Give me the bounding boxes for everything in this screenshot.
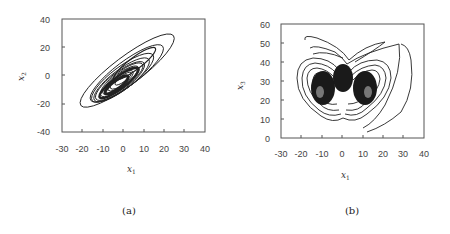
caption-b: (b)	[332, 205, 372, 216]
svg-text:10: 10	[260, 115, 270, 125]
svg-text:0: 0	[45, 71, 50, 81]
svg-text:20: 20	[378, 149, 388, 159]
svg-text:-30: -30	[55, 144, 68, 154]
phase-plot-x1-x2: 40 20 0 -20 -40 -30 -20 -10 0 10 20 30 4…	[0, 0, 225, 234]
y-axis-b: 60 50 40 30 20 10 0	[260, 20, 284, 144]
svg-text:-40: -40	[37, 127, 50, 137]
svg-text:0: 0	[339, 149, 344, 159]
attractor-a	[72, 25, 181, 117]
phase-plot-x1-x3: 60 50 40 30 20 10 0 -30 -20 -10 0 10 20 …	[225, 0, 450, 234]
svg-text:40: 40	[419, 149, 429, 159]
caption-a: (a)	[109, 205, 149, 216]
svg-text:40: 40	[200, 144, 210, 154]
svg-text:0: 0	[120, 144, 125, 154]
svg-text:-10: -10	[315, 149, 328, 159]
svg-text:-20: -20	[294, 149, 307, 159]
svg-text:30: 30	[260, 77, 270, 87]
x-axis-label-b: x1	[341, 170, 350, 181]
svg-text:-30: -30	[274, 149, 287, 159]
svg-text:30: 30	[179, 144, 189, 154]
svg-text:20: 20	[159, 144, 169, 154]
svg-text:-20: -20	[37, 99, 50, 109]
svg-text:50: 50	[260, 39, 270, 49]
panel-b: 60 50 40 30 20 10 0 -30 -20 -10 0 10 20 …	[225, 0, 450, 234]
svg-text:10: 10	[358, 149, 368, 159]
y-axis-label-a: x2	[16, 72, 27, 81]
x-axis-b: -30 -20 -10 0 10 20 30 40	[274, 135, 429, 159]
svg-text:40: 40	[260, 58, 270, 68]
y-axis-label-b: x3	[235, 81, 246, 90]
svg-text:30: 30	[398, 149, 408, 159]
x-axis-a: -30 -20 -10 0 10 20 30 40	[55, 129, 210, 154]
svg-text:20: 20	[260, 96, 270, 106]
svg-text:-20: -20	[75, 144, 88, 154]
svg-text:0: 0	[265, 134, 270, 144]
svg-text:40: 40	[40, 15, 50, 25]
svg-text:10: 10	[139, 144, 149, 154]
svg-text:60: 60	[260, 20, 270, 30]
x-axis-label-a: x1	[127, 164, 136, 175]
svg-text:-10: -10	[96, 144, 109, 154]
svg-text:20: 20	[40, 43, 50, 53]
panel-a: 40 20 0 -20 -40 -30 -20 -10 0 10 20 30 4…	[0, 0, 225, 234]
y-axis-a: 40 20 0 -20 -40	[37, 15, 65, 137]
attractor-b	[297, 36, 412, 132]
